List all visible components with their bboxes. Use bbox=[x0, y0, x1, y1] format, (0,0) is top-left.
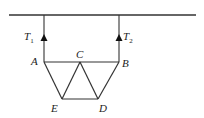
tension-arrow-t1-icon bbox=[41, 34, 48, 41]
label-node-c: C bbox=[76, 48, 84, 60]
label-t1: T1 bbox=[24, 30, 34, 45]
truss-diagram: T1 T2 A C B E D bbox=[0, 0, 204, 118]
member-ec bbox=[62, 62, 80, 99]
label-node-a: A bbox=[30, 55, 38, 67]
label-node-d: D bbox=[98, 102, 107, 114]
member-ae bbox=[44, 62, 62, 99]
truss-members bbox=[44, 62, 119, 99]
tension-arrow-t2-icon bbox=[116, 34, 123, 41]
label-node-e: E bbox=[50, 102, 58, 114]
label-node-b: B bbox=[122, 57, 129, 69]
member-db bbox=[98, 62, 119, 99]
label-t2: T2 bbox=[123, 30, 133, 45]
member-cd bbox=[80, 62, 98, 99]
